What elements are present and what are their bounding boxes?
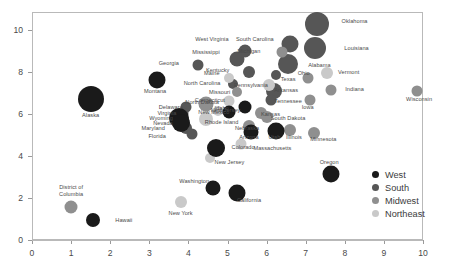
- point-label: Arkansas: [274, 87, 298, 93]
- point-label: Maine: [204, 70, 220, 76]
- point-label: Georgia: [159, 60, 179, 66]
- point-label: Ohio: [298, 70, 310, 76]
- data-point-bubble: [172, 114, 190, 132]
- point-label: Oregon: [320, 159, 339, 165]
- y-tick-mark: [28, 156, 32, 157]
- legend-swatch-icon: [372, 210, 379, 217]
- y-tick-label: 2: [18, 193, 23, 203]
- legend-item-northeast[interactable]: Northeast: [372, 207, 425, 220]
- data-point-bubble: [224, 73, 234, 83]
- legend-label: West: [385, 170, 406, 180]
- x-tick-label: 3: [147, 248, 152, 258]
- point-label: California: [237, 197, 261, 203]
- data-point-bubble: [86, 213, 100, 227]
- x-axis-line: [32, 240, 423, 241]
- legend-swatch-icon: [372, 184, 379, 191]
- point-label: Louisiana: [344, 45, 368, 51]
- point-label: Wisconsin: [406, 96, 432, 102]
- y-tick-mark: [28, 198, 32, 199]
- point-label: Pennsylvania: [234, 82, 268, 88]
- point-label: Hawaii: [115, 217, 132, 223]
- point-label: Massachusetts: [253, 145, 291, 151]
- point-label: South Dakota: [271, 115, 306, 121]
- point-label: Missouri: [209, 89, 230, 95]
- y-tick-label: 6: [18, 109, 23, 119]
- point-label: Oklahoma: [342, 18, 368, 24]
- point-label: Tennessee: [274, 98, 302, 104]
- point-label: Colorado: [232, 144, 255, 150]
- data-point-bubble: [277, 47, 288, 58]
- data-point-bubble: [149, 72, 166, 89]
- point-label: Vermont: [338, 69, 359, 75]
- point-label: Montana: [144, 88, 166, 94]
- point-label: South Carolina: [236, 36, 274, 42]
- point-label: Michigan: [238, 48, 261, 54]
- y-tick-mark: [28, 72, 32, 73]
- point-label: Illinois: [286, 134, 302, 140]
- legend-label: Northeast: [385, 209, 425, 219]
- legend-label: Midwest: [385, 196, 419, 206]
- y-tick-mark: [28, 30, 32, 31]
- legend-item-south[interactable]: South: [372, 181, 425, 194]
- legend-item-midwest[interactable]: Midwest: [372, 194, 425, 207]
- data-point-bubble: [321, 67, 333, 79]
- data-point-bubble: [232, 87, 242, 97]
- legend: WestSouthMidwestNortheast: [372, 168, 425, 220]
- data-point-bubble: [412, 85, 423, 96]
- x-tick-label: 4: [186, 248, 191, 258]
- legend-swatch-icon: [372, 197, 379, 204]
- x-tick-label: 8: [342, 248, 347, 258]
- data-point-bubble: [65, 201, 78, 214]
- x-tick-label: 10: [418, 248, 428, 258]
- point-label: Minnesota: [310, 136, 336, 142]
- point-label: Florida: [148, 133, 165, 139]
- point-label: Alabama: [308, 62, 330, 68]
- point-label: Indiana: [345, 86, 364, 92]
- x-tick-label: 2: [108, 248, 113, 258]
- x-tick-label: 5: [225, 248, 230, 258]
- point-label: Mississippi: [192, 49, 220, 55]
- data-point-bubble: [207, 139, 225, 157]
- point-label: Washington: [179, 178, 209, 184]
- data-point-bubble: [78, 86, 104, 112]
- point-label: Iowa: [302, 104, 314, 110]
- y-tick-label: 10: [13, 25, 23, 35]
- legend-item-west[interactable]: West: [372, 168, 425, 181]
- point-label: Alaska: [82, 112, 99, 118]
- y-tick-label: 4: [18, 151, 23, 161]
- data-point-bubble: [326, 84, 337, 95]
- y-tick-label: 8: [18, 67, 23, 77]
- x-tick-mark: [423, 240, 424, 244]
- y-tick-mark: [28, 240, 32, 241]
- data-point-bubble: [323, 165, 340, 182]
- x-tick-label: 1: [69, 248, 74, 258]
- point-label: District ofColumbia: [59, 183, 83, 198]
- data-point-bubble: [175, 196, 187, 208]
- scatter-plot-figure: 012345678910 0246810 OklahomaSouth Carol…: [0, 0, 451, 272]
- data-point-bubble: [243, 66, 255, 78]
- point-label: North Carolina: [184, 80, 221, 86]
- point-label: Maryland: [142, 125, 165, 131]
- y-tick-mark: [28, 114, 32, 115]
- point-label: New Jersey: [215, 159, 245, 165]
- point-label: Utah: [268, 134, 280, 140]
- point-label: Arizona: [239, 134, 258, 140]
- point-label: Delaware: [159, 104, 183, 110]
- point-label: West Virginia: [195, 36, 228, 42]
- point-label: New York: [169, 210, 193, 216]
- legend-label: South: [385, 183, 409, 193]
- data-point-bubble: [193, 59, 204, 70]
- x-tick-label: 0: [30, 248, 35, 258]
- point-label: Nebraska: [235, 125, 259, 131]
- x-tick-label: 6: [264, 248, 269, 258]
- data-point-bubble: [305, 12, 329, 36]
- x-tick-label: 7: [303, 248, 308, 258]
- point-label: New Jersey: [211, 107, 241, 113]
- x-tick-label: 9: [382, 248, 387, 258]
- data-point-bubble: [187, 128, 198, 139]
- point-label: Rhode Island: [205, 119, 239, 125]
- point-label: Texas: [281, 76, 296, 82]
- legend-swatch-icon: [372, 171, 379, 178]
- y-tick-label: 0: [18, 235, 23, 245]
- data-point-bubble: [304, 37, 326, 59]
